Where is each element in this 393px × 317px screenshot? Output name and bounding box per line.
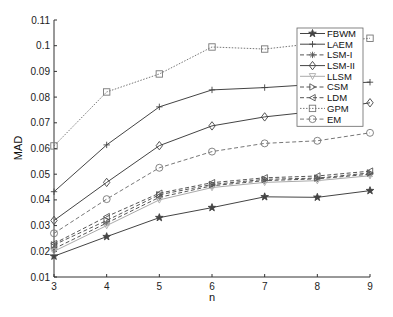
x-axis-label: n [209, 291, 215, 303]
series-fbwm [50, 187, 374, 260]
legend-label: LAEM [327, 39, 353, 50]
series-llsm [51, 173, 373, 254]
y-tick-label: 0.06 [31, 143, 51, 154]
y-tick-label: 0.1 [36, 40, 50, 51]
y-tick-label: 0.08 [31, 92, 51, 103]
x-tick-label: 9 [367, 281, 373, 292]
circle-marker-icon [103, 196, 110, 203]
legend-label: LSM-I [327, 49, 352, 60]
y-tick-label: 0.04 [31, 194, 51, 205]
y-axis-label: MAD [12, 136, 24, 161]
star-marker-icon [156, 214, 164, 221]
legend-label: LLSM [327, 71, 352, 82]
x-tick-label: 4 [104, 281, 110, 292]
legend-label: LDM [327, 92, 347, 103]
y-tick-label: 0.11 [31, 15, 50, 26]
legend-label: EM [327, 114, 341, 125]
legend-label: CSM [327, 81, 348, 92]
star-marker-icon [208, 204, 216, 211]
asterisk-legend-icon [309, 52, 315, 58]
square-marker-icon [367, 35, 373, 41]
legend-label: FBWM [327, 28, 356, 39]
y-tick-label: 0.05 [31, 169, 51, 180]
star-marker-icon [261, 193, 269, 200]
series-line [54, 176, 370, 252]
x-tick-label: 8 [315, 281, 321, 292]
line-chart: 34567890.010.020.030.040.050.060.070.080… [0, 0, 393, 317]
legend: FBWMLAEMLSM-ILSM-IILLSMCSMLDMGPMEM [297, 28, 363, 126]
star-marker-icon [103, 233, 111, 240]
star-marker-icon [314, 193, 322, 200]
x-tick-label: 5 [157, 281, 163, 292]
x-tick-label: 7 [262, 281, 268, 292]
plus-marker-icon [367, 79, 373, 85]
plus-marker-icon [261, 84, 267, 90]
y-tick-label: 0.02 [31, 246, 51, 257]
x-tick-label: 3 [51, 281, 57, 292]
legend-label: LSM-II [327, 60, 355, 71]
legend-label: GPM [327, 103, 349, 114]
y-tick-label: 0.07 [31, 117, 51, 128]
y-tick-label: 0.01 [31, 272, 51, 283]
square-marker-icon [156, 71, 162, 77]
plus-marker-icon [156, 104, 162, 110]
plus-marker-icon [209, 87, 215, 93]
y-tick-label: 0.03 [31, 220, 51, 231]
y-tick-label: 0.09 [31, 66, 51, 77]
star-marker-icon [366, 187, 374, 194]
